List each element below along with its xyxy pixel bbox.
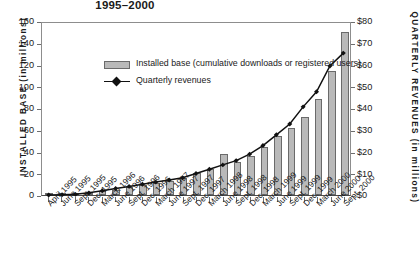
chart-container: 1995–2000 INSTALLED BASE (in millions) Q…: [0, 0, 420, 257]
right-tick-mark: [351, 44, 355, 45]
legend-label-quarterly-revenues: Quarterly revenues: [136, 75, 211, 85]
left-tick-label: 120: [0, 61, 34, 70]
line-series: [42, 23, 350, 195]
left-tick-label: 80: [0, 104, 34, 113]
data-point-marker: [220, 162, 225, 167]
right-tick-mark: [351, 153, 355, 154]
right-tick-label: $50: [357, 83, 387, 92]
legend-item-quarterly-revenues: Quarterly revenues: [104, 75, 361, 86]
left-tick-label: 20: [0, 170, 34, 179]
x-axis-labels: April 1995June 1995Sept. 1995Dec. 1995Ma…: [41, 197, 351, 257]
chart-legend: Installed base (cumulative downloads or …: [104, 58, 361, 92]
right-tick-mark: [351, 22, 355, 23]
right-tick-label: $20: [357, 148, 387, 157]
right-axis-title: QUARTERLY REVENUES (in millions): [410, 12, 419, 182]
plot-area: [41, 22, 351, 196]
left-tick-label: 60: [0, 126, 34, 135]
chart-title: 1995–2000: [0, 0, 250, 11]
left-tick-label: 0: [0, 191, 34, 200]
right-tick-label: $70: [357, 39, 387, 48]
right-tick-label: $40: [357, 104, 387, 113]
legend-item-installed-base: Installed base (cumulative downloads or …: [104, 58, 361, 69]
right-tick-label: $80: [357, 17, 387, 26]
left-tick-label: 40: [0, 148, 34, 157]
data-point-marker: [234, 158, 239, 163]
right-tick-label: $30: [357, 126, 387, 135]
left-tick-label: 160: [0, 17, 34, 26]
right-tick-label: $60: [357, 61, 387, 70]
legend-label-installed-base: Installed base (cumulative downloads or …: [136, 58, 361, 68]
data-point-marker: [207, 167, 212, 172]
right-tick-mark: [351, 109, 355, 110]
left-tick-label: 140: [0, 39, 34, 48]
left-tick-label: 100: [0, 83, 34, 92]
right-tick-mark: [351, 131, 355, 132]
line-marker-icon: [104, 77, 130, 86]
bar-swatch-icon: [104, 61, 130, 69]
